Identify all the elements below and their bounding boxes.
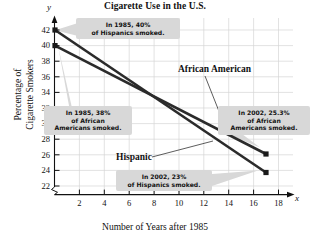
x-tick-label: 18 xyxy=(271,199,287,208)
annotation-line: Americans smoked. xyxy=(222,124,306,132)
series-leader-lines xyxy=(152,76,228,157)
grid-vertical xyxy=(79,18,278,192)
x-tick-label: 16 xyxy=(246,199,262,208)
y-tick-label: 28 xyxy=(34,135,50,144)
data-point-marker xyxy=(52,27,57,32)
annotation-line: In 1985, 38% xyxy=(48,109,128,117)
y-tick-label: 24 xyxy=(34,166,50,175)
annotation-line: of Hispanics smoked. xyxy=(80,29,176,37)
x-tick-label: 2 xyxy=(71,199,87,208)
x-axis-arrow xyxy=(287,192,295,198)
annotation-hispanic-1985: In 1985, 40% of Hispanics smoked. xyxy=(76,18,180,39)
y-axis-title-line2: Cigarette Smokers xyxy=(24,15,36,175)
chart-figure: Cigarette Use in the U.S. xyxy=(0,0,310,240)
y-axis-letter: y xyxy=(47,2,51,12)
annotation-line: of Hispanics smoked. xyxy=(120,181,208,189)
annotation-african-american-1985: In 1985, 38% of African Americans smoked… xyxy=(44,106,132,135)
annotation-african-american-2002: In 2002, 25.3% of African Americans smok… xyxy=(218,106,310,135)
y-tick-label: 36 xyxy=(34,73,50,82)
y-tick-label: 42 xyxy=(34,26,50,35)
annotation-line: of African xyxy=(48,117,128,125)
x-axis xyxy=(55,192,295,198)
series-label-african-american: African American xyxy=(178,64,251,74)
callout-tail-hispanic-2002 xyxy=(212,171,258,186)
x-tick-label: 6 xyxy=(121,199,137,208)
annotation-line: of African xyxy=(222,117,306,125)
y-axis-title: Percentage of Cigarette Smokers xyxy=(13,15,36,175)
annotation-line: In 2002, 23% xyxy=(120,173,208,181)
callout-tails xyxy=(55,23,260,186)
y-tick-label: 40 xyxy=(34,41,50,50)
data-point-marker xyxy=(263,151,268,156)
x-tick-label: 12 xyxy=(196,199,212,208)
y-axis-break xyxy=(52,187,58,195)
x-axis-letter: x xyxy=(295,193,299,203)
data-point-marker xyxy=(52,43,57,48)
annotation-line: In 1985, 40% xyxy=(80,21,176,29)
x-tick-label: 8 xyxy=(146,199,162,208)
y-tick-label: 26 xyxy=(34,151,50,160)
y-axis-title-line1: Percentage of xyxy=(13,15,25,175)
y-tick-label: 22 xyxy=(34,182,50,191)
x-tick-label: 4 xyxy=(96,199,112,208)
y-axis-arrow xyxy=(52,16,58,24)
series-label-hispanic: Hispanic xyxy=(116,152,152,162)
annotation-line: Americans smoked. xyxy=(48,124,128,132)
annotation-hispanic-2002: In 2002, 23% of Hispanics smoked. xyxy=(116,170,212,191)
y-tick-label: 38 xyxy=(34,57,50,66)
x-axis-title: Number of Years after 1985 xyxy=(30,222,280,232)
series-african-american xyxy=(52,43,268,157)
annotation-line: In 2002, 25.3% xyxy=(222,109,306,117)
x-tick-label: 10 xyxy=(171,199,187,208)
y-tick-label: 34 xyxy=(34,88,50,97)
data-point-marker xyxy=(263,170,268,175)
x-tick-label: 14 xyxy=(221,199,237,208)
